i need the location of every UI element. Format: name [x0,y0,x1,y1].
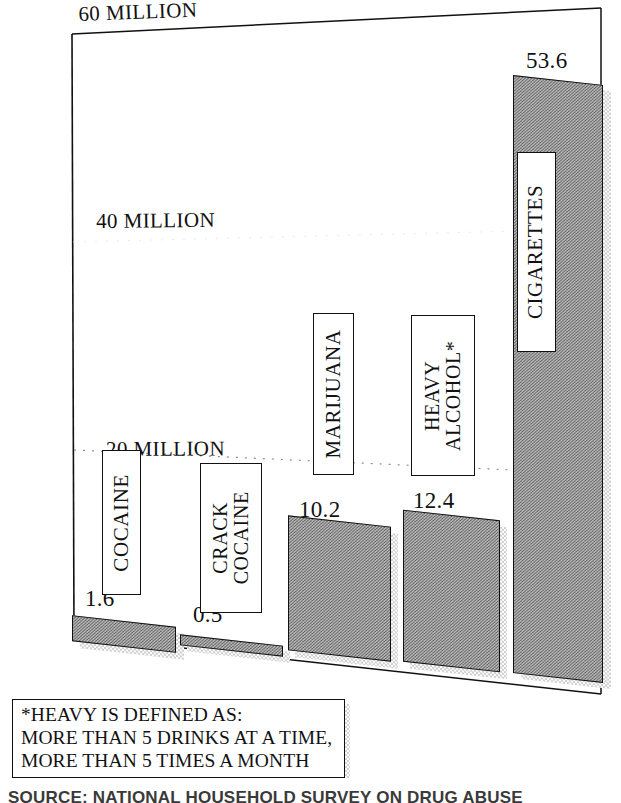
y-tick-label-40: 40 MILLION [96,208,215,234]
y-tick-label-60: 60 MILLION [78,0,198,27]
category-label-marijuana: MARIJUANA [313,313,354,475]
bar-marijuana[interactable] [288,515,391,661]
category-label-heavy-alcohol-text: HEAVYALCOHOL* [422,340,464,450]
category-label-marijuana-text: MARIJUANA [323,329,345,458]
category-label-cigarettes: CIGARETTES [517,152,556,352]
y-axis-line [72,34,74,636]
category-label-cocaine: COCAINE [102,450,141,595]
bar-heavy-alcohol[interactable] [403,510,500,673]
value-label-marijuana: 10.2 [299,497,340,523]
category-label-crack-cocaine-text: CRACKCOCAINE [210,491,252,584]
footnote-line-1: *HEAVY IS DEFINED AS: [21,704,337,727]
source-credit: SOURCE: NATIONAL HOUSEHOLD SURVEY ON DRU… [8,788,523,803]
footnote-line-2: MORE THAN 5 DRINKS AT A TIME, [21,727,337,750]
category-label-cigarettes-text: CIGARETTES [526,185,548,319]
footnote-line-3: MORE THAN 5 TIMES A MONTH [21,750,337,773]
category-label-cocaine-text: COCAINE [111,474,133,572]
value-label-cigarettes: 53.6 [526,48,567,74]
category-label-heavy-alcohol: HEAVYALCOHOL* [411,315,475,476]
chart-canvas: 60 MILLION 40 MILLION 20 MILLION 1.6 COC… [0,0,621,803]
footnote-box: *HEAVY IS DEFINED AS: MORE THAN 5 DRINKS… [12,699,345,778]
category-label-crack-cocaine: CRACKCOCAINE [200,463,262,613]
value-label-heavy-alcohol: 12.4 [413,488,454,514]
